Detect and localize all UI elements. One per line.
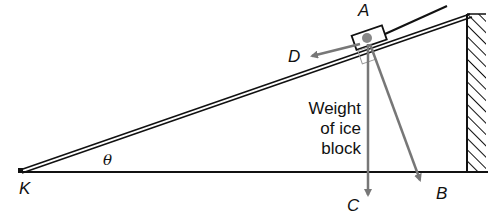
label-theta: θ (103, 151, 112, 169)
rope (385, 6, 447, 34)
inclined-plane (18, 14, 472, 173)
svg-text:block: block (321, 139, 361, 158)
wall (467, 14, 486, 172)
svg-text:Weight: Weight (308, 99, 361, 118)
label-k: K (19, 179, 31, 198)
weight-label: Weight of ice block (308, 99, 361, 158)
incline-diagram: A D C B K θ Weight of ice block (0, 0, 500, 218)
arrow-b (370, 44, 420, 180)
label-a: A (357, 1, 369, 20)
label-b: B (436, 184, 447, 203)
label-d: D (288, 47, 300, 66)
svg-text:of ice: of ice (320, 119, 361, 138)
center-of-mass-dot (362, 33, 372, 43)
label-c: C (347, 196, 360, 215)
